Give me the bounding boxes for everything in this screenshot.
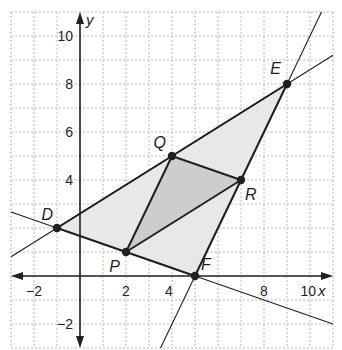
y-axis-label: y	[85, 11, 95, 28]
point-d-label: D	[41, 206, 53, 223]
point-q-label: Q	[154, 134, 166, 151]
y-axis-arrow-down-icon	[76, 336, 84, 348]
coordinate-plane: x y −22481010864−2 DEFPQR	[0, 0, 342, 350]
y-tick-label: −2	[57, 316, 73, 332]
point-p-label: P	[109, 258, 120, 275]
x-tick-label: −2	[26, 283, 42, 299]
x-axis-arrow-right-icon	[321, 272, 333, 280]
point-r-label: R	[245, 186, 257, 203]
point-f-dot-icon	[191, 272, 199, 280]
point-d-dot-icon	[53, 224, 61, 232]
x-tick-label: 10	[300, 283, 316, 299]
x-tick-label: 2	[122, 283, 130, 299]
y-tick-label: 10	[57, 28, 73, 44]
x-axis-arrow-left-icon	[11, 272, 23, 280]
y-tick-label: 8	[65, 76, 73, 92]
point-r-dot-icon	[237, 176, 245, 184]
coordinate-plane-figure: x y −22481010864−2 DEFPQR	[0, 0, 342, 350]
point-p-dot-icon	[122, 248, 130, 256]
point-e-dot-icon	[283, 80, 291, 88]
y-tick-label: 4	[65, 172, 73, 188]
point-q-dot-icon	[168, 152, 176, 160]
point-e-label: E	[270, 60, 281, 77]
x-axis-label: x	[317, 282, 326, 299]
y-tick-label: 6	[65, 124, 73, 140]
y-axis-arrow-up-icon	[76, 12, 84, 24]
x-tick-label: 8	[260, 283, 268, 299]
point-f-label: F	[201, 256, 212, 273]
x-tick-label: 4	[165, 283, 173, 299]
